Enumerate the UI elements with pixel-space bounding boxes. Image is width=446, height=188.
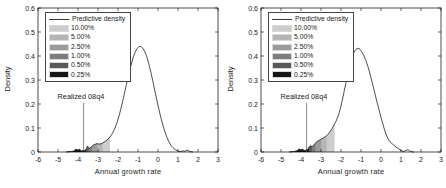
legend-item-band: 0.25% xyxy=(48,70,128,79)
x-tick-label: -1 xyxy=(358,156,364,163)
y-tick-label: 0 xyxy=(254,149,258,156)
x-axis-label: Annual growth rate xyxy=(261,167,441,176)
legend-item-band: 0.50% xyxy=(271,61,351,70)
x-tick-label: 1 xyxy=(176,156,180,163)
legend-band-label: 1.00% xyxy=(294,53,313,60)
x-tick-label: -2 xyxy=(115,156,121,163)
legend-item-band: 1.00% xyxy=(271,52,351,61)
predictive-density-line-sample xyxy=(49,19,69,20)
y-tick-label: 0.1 xyxy=(25,125,35,132)
legend-item-band: 10.00% xyxy=(48,24,128,33)
legend-band-label: 5.00% xyxy=(71,34,90,41)
x-tick-label: -5 xyxy=(278,156,284,163)
legend-box: Predictive density10.00%5.00%2.50%1.00%0… xyxy=(268,12,354,82)
x-tick-label: 0 xyxy=(156,156,160,163)
x-tick-label: -5 xyxy=(55,156,61,163)
x-tick-label: 2 xyxy=(196,156,200,163)
legend-band-label: 0.25% xyxy=(294,72,313,79)
x-tick-label: -2 xyxy=(338,156,344,163)
x-tick-label: -6 xyxy=(35,156,41,163)
y-tick-label: 0.5 xyxy=(248,29,258,36)
x-tick-label: -1 xyxy=(135,156,141,163)
legend-band-swatch xyxy=(50,26,68,31)
x-tick-label: -6 xyxy=(258,156,264,163)
legend-band-label: 2.50% xyxy=(71,44,90,51)
x-tick-label: -4 xyxy=(298,156,304,163)
x-tick-label: 0 xyxy=(379,156,383,163)
y-tick-label: 0.4 xyxy=(25,53,35,60)
legend-band-swatch xyxy=(273,45,291,50)
x-tick-label: -3 xyxy=(318,156,324,163)
legend-band-swatch xyxy=(50,72,68,77)
legend-band-label: 0.50% xyxy=(71,62,90,69)
x-tick-label: 3 xyxy=(216,156,220,163)
legend-item-band: 1.00% xyxy=(48,52,128,61)
y-tick-label: 0.4 xyxy=(248,53,258,60)
predictive-density-line-sample xyxy=(272,19,292,20)
y-tick-label: 0.6 xyxy=(25,5,35,12)
y-tick-label: 0.6 xyxy=(248,5,258,12)
legend-item-band: 10.00% xyxy=(271,24,351,33)
legend-band-label: 1.00% xyxy=(71,53,90,60)
legend-item-band: 5.00% xyxy=(48,33,128,42)
y-tick-label: 0 xyxy=(31,149,35,156)
predictive-density-figure: -6-5-4-3-2-1012300.10.20.30.40.50.6 Dens… xyxy=(0,0,446,188)
legend-band-label: 10.00% xyxy=(294,25,317,32)
legend-box: Predictive density10.00%5.00%2.50%1.00%0… xyxy=(45,12,131,82)
legend-line-label: Predictive density xyxy=(295,16,348,23)
legend-item-line: Predictive density xyxy=(271,15,351,24)
legend-band-swatch xyxy=(50,63,68,68)
x-tick-label: -4 xyxy=(75,156,81,163)
chart-left: -6-5-4-3-2-1012300.10.20.30.40.50.6 Dens… xyxy=(0,0,223,188)
legend-band-swatch xyxy=(273,26,291,31)
x-tick-label: -3 xyxy=(95,156,101,163)
legend-band-label: 0.25% xyxy=(71,72,90,79)
legend-band-label: 5.00% xyxy=(294,34,313,41)
y-tick-label: 0.3 xyxy=(248,77,258,84)
realized-annotation: Realized 08q4 xyxy=(58,92,105,101)
y-axis-label: Density xyxy=(3,49,13,109)
realized-annotation: Realized 08q4 xyxy=(281,92,328,101)
x-axis-label: Annual growth rate xyxy=(38,167,218,176)
x-tick-label: 2 xyxy=(419,156,423,163)
legend-band-label: 0.50% xyxy=(294,62,313,69)
legend-band-label: 2.50% xyxy=(294,44,313,51)
legend-band-swatch xyxy=(273,72,291,77)
legend-band-swatch xyxy=(50,35,68,40)
chart-right: -6-5-4-3-2-1012300.10.20.30.40.50.6 Dens… xyxy=(223,0,446,188)
y-tick-label: 0.5 xyxy=(25,29,35,36)
legend-item-band: 0.25% xyxy=(271,70,351,79)
y-tick-label: 0.2 xyxy=(248,101,258,108)
x-tick-label: 3 xyxy=(439,156,443,163)
legend-item-line: Predictive density xyxy=(48,15,128,24)
legend-band-swatch xyxy=(50,45,68,50)
legend-item-band: 0.50% xyxy=(48,61,128,70)
legend-line-label: Predictive density xyxy=(72,16,125,23)
y-tick-label: 0.3 xyxy=(25,77,35,84)
legend-band-swatch xyxy=(273,63,291,68)
legend-item-band: 2.50% xyxy=(48,42,128,51)
legend-band-swatch xyxy=(273,54,291,59)
y-axis-label: Density xyxy=(226,49,236,109)
legend-item-band: 2.50% xyxy=(271,42,351,51)
x-tick-label: 1 xyxy=(399,156,403,163)
y-tick-label: 0.1 xyxy=(248,125,258,132)
legend-item-band: 5.00% xyxy=(271,33,351,42)
legend-band-label: 10.00% xyxy=(71,25,94,32)
legend-band-swatch xyxy=(50,54,68,59)
y-tick-label: 0.2 xyxy=(25,101,35,108)
legend-band-swatch xyxy=(273,35,291,40)
